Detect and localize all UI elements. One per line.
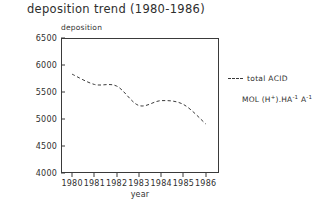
page-title: deposition trend (1980-1986) xyxy=(27,2,205,16)
units-middle: ).HA xyxy=(276,95,293,104)
series-total-acid xyxy=(61,38,219,173)
y-tick-label: 4000 xyxy=(36,169,57,178)
y-tick-label: 6500 xyxy=(36,34,57,43)
x-tick-label: 1986 xyxy=(195,179,216,188)
y-tick-label: 5000 xyxy=(36,115,57,124)
x-tick-mark xyxy=(183,173,184,177)
legend-item-total-acid: total ACID xyxy=(228,74,324,83)
x-tick-label: 1985 xyxy=(173,179,194,188)
x-tick-mark xyxy=(72,173,73,177)
x-tick-label: 1984 xyxy=(151,179,172,188)
x-tick-mark xyxy=(116,173,117,177)
x-tick-mark xyxy=(161,173,162,177)
legend: total ACID MOL (H+).HA-1 A-1 xyxy=(228,74,324,104)
x-tick-mark xyxy=(138,173,139,177)
x-tick-label: 1982 xyxy=(106,179,127,188)
legend-item-label: total ACID xyxy=(247,74,288,83)
units-prefix: MOL (H xyxy=(242,95,271,104)
y-tick-label: 6000 xyxy=(36,61,57,70)
plot-area: 650060005500500045004000 198019811982198… xyxy=(61,38,219,173)
units-exponent-2: -1 xyxy=(306,94,312,100)
x-tick-label: 1981 xyxy=(84,179,105,188)
x-axis-label: year xyxy=(61,190,219,199)
chart-figure: deposition trend (1980-1986) deposition … xyxy=(0,0,324,208)
legend-units: MOL (H+).HA-1 A-1 xyxy=(242,95,324,104)
x-tick-mark xyxy=(94,173,95,177)
series-line xyxy=(72,74,206,124)
x-tick-label: 1980 xyxy=(62,179,83,188)
legend-line-swatch-icon xyxy=(228,78,243,79)
y-tick-label: 4500 xyxy=(36,142,57,151)
x-tick-label: 1983 xyxy=(128,179,149,188)
y-tick-label: 5500 xyxy=(36,88,57,97)
y-axis-label: deposition xyxy=(61,23,102,32)
x-tick-mark xyxy=(205,173,206,177)
